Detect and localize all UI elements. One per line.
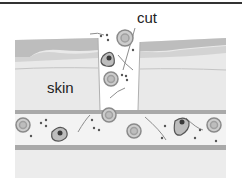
red-blood-cell	[104, 72, 118, 86]
white-blood-cell	[101, 52, 114, 66]
skin-right-block	[138, 38, 226, 110]
skin-label: skin	[47, 80, 74, 95]
red-blood-cell	[16, 118, 30, 132]
vessel-lumen	[15, 114, 226, 145]
red-blood-cell	[207, 118, 221, 132]
skin-left-block	[15, 38, 100, 110]
white-blood-cell	[52, 127, 67, 141]
red-blood-cell	[117, 30, 133, 46]
skin-cut-illustration	[0, 0, 242, 195]
red-blood-cell	[127, 124, 141, 138]
lower-tissue	[15, 147, 226, 178]
vessel-wall-bottom	[15, 145, 226, 150]
cut-label: cut	[137, 10, 157, 25]
vessel-wall-top	[15, 110, 226, 114]
red-blood-cell	[102, 108, 116, 122]
